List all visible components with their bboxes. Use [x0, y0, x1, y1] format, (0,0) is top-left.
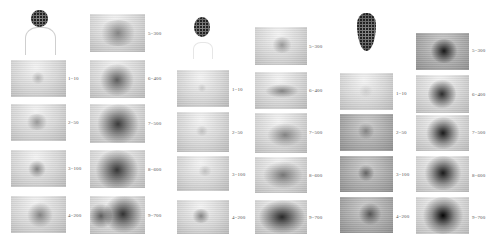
image-panel-5 [90, 14, 145, 52]
image-panel-1 [11, 60, 66, 97]
figure-group-c: 1=10 2=50 3=100 4=200 5=300 6=400 7=500 … [330, 0, 500, 244]
panel-label-9: 9=700 [472, 215, 485, 220]
image-panel-1 [340, 73, 393, 110]
panel-label-3: 3=100 [232, 172, 245, 177]
panel-label-2: 2=50 [232, 130, 243, 135]
panel-label-9: 9=700 [148, 213, 161, 218]
panel-label-5: 5=300 [148, 31, 161, 36]
image-panel-7 [416, 115, 469, 151]
image-panel-9 [416, 197, 469, 234]
image-panel-8 [90, 150, 145, 188]
image-panel-5 [255, 27, 307, 65]
image-panel-9 [255, 200, 307, 234]
sample-head-illustration [194, 17, 210, 37]
panel-label-9: 9=700 [309, 215, 322, 220]
panel-label-8: 8=600 [472, 173, 485, 178]
panel-label-7: 7=500 [309, 130, 322, 135]
image-panel-3 [11, 150, 66, 187]
sample-body-outline [193, 42, 213, 59]
panel-label-4: 4=200 [396, 214, 409, 219]
panel-label-2: 2=50 [396, 130, 407, 135]
image-panel-9 [90, 196, 145, 234]
figure-group-a: 1=10 2=50 3=100 4=200 5=300 6=400 7=500 … [0, 0, 165, 244]
image-panel-6 [90, 60, 145, 98]
panel-label-7: 7=500 [148, 121, 161, 126]
panel-label-3: 3=100 [396, 172, 409, 177]
panel-label-4: 4=200 [232, 215, 245, 220]
image-panel-2 [11, 104, 66, 141]
image-panel-6 [416, 75, 469, 113]
panel-label-1: 1=10 [396, 91, 407, 96]
image-panel-8 [255, 157, 307, 193]
panel-label-6: 6=400 [472, 92, 485, 97]
panel-label-8: 8=600 [309, 173, 322, 178]
image-panel-3 [177, 156, 229, 191]
image-panel-3 [340, 156, 393, 192]
image-panel-6 [255, 72, 307, 109]
image-panel-4 [177, 200, 229, 234]
panel-label-8: 8=600 [148, 167, 161, 172]
panel-label-5: 5=300 [472, 48, 485, 53]
image-panel-7 [255, 113, 307, 153]
sample-cone-illustration [357, 13, 376, 51]
panel-label-3: 3=100 [68, 166, 81, 171]
image-panel-8 [416, 156, 469, 192]
image-panel-1 [177, 70, 229, 107]
panel-label-2: 2=50 [68, 120, 79, 125]
panel-label-1: 1=10 [68, 76, 79, 81]
image-panel-4 [11, 196, 66, 233]
sample-body-outline [25, 27, 56, 55]
image-panel-2 [340, 114, 393, 151]
panel-label-6: 6=400 [148, 76, 161, 81]
panel-label-5: 5=300 [309, 44, 322, 49]
panel-label-7: 7=500 [472, 130, 485, 135]
sample-head-illustration [31, 10, 48, 27]
panel-label-1: 1=10 [232, 87, 243, 92]
image-panel-5 [416, 33, 469, 70]
image-panel-7 [90, 104, 145, 143]
image-panel-4 [340, 197, 393, 233]
panel-label-4: 4=200 [68, 213, 81, 218]
panel-label-6: 6=400 [309, 88, 322, 93]
figure-group-b: 1=10 2=50 3=100 4=200 5=300 6=400 7=500 … [165, 0, 330, 244]
image-panel-2 [177, 112, 229, 152]
